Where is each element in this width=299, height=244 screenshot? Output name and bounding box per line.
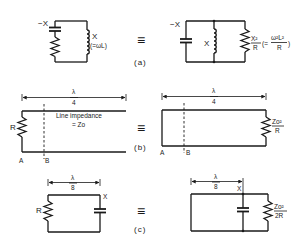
resistor-icon	[44, 201, 52, 221]
capacitor-icon	[94, 209, 106, 213]
resistor-note-numerator: ω²L²	[271, 34, 285, 41]
resistor-icon	[262, 117, 270, 137]
line-impedance-value: = Zo	[72, 121, 86, 128]
equivalence-symbol: ≡	[137, 203, 145, 219]
length-denominator: 8	[71, 184, 75, 191]
equivalence-symbol: ≡	[137, 32, 145, 48]
capacitor-label: −X	[170, 20, 181, 29]
length-denominator: 4	[212, 98, 216, 105]
point-a-label: A	[19, 157, 24, 164]
resistor-icon	[241, 29, 249, 52]
circuit-equivalence-diagram: −X X (=ωL) ≡ (a) −X X X²	[0, 0, 299, 244]
panel-a-right-circuit: −X X X² R (= ω²L² R )	[170, 20, 290, 64]
resistor-label-numerator: Zo²	[274, 203, 285, 210]
length-numerator: λ	[212, 87, 216, 94]
caption-b: (b)	[134, 143, 147, 152]
inductor-icon	[214, 29, 216, 53]
caption-a: (a)	[134, 58, 147, 67]
resistor-note-denominator: R	[277, 44, 282, 51]
equivalence-symbol: ≡	[137, 120, 145, 136]
point-b-label: B	[186, 149, 190, 156]
capacitor-label: X	[103, 193, 108, 200]
resistor-note-prefix: (=	[262, 40, 268, 48]
inductor-note: (=ωL)	[90, 42, 107, 50]
panel-a-left-circuit: −X X (=ωL)	[38, 19, 107, 62]
panel-b-right-circuit: λ 4 Zo² R A B	[160, 87, 284, 156]
length-denominator: 4	[72, 99, 76, 106]
length-numerator: λ	[71, 174, 75, 181]
inductor-label: X	[204, 39, 210, 48]
length-numerator: λ	[214, 173, 218, 180]
inductor-icon	[87, 30, 89, 54]
resistor-icon	[18, 117, 26, 137]
resistor-label-denominator: 2R	[275, 212, 284, 219]
caption-c: (c)	[134, 225, 146, 234]
resistor-label-numerator: X²	[251, 35, 258, 42]
capacitor-label: −X	[38, 19, 49, 28]
inductor-label: X	[92, 32, 98, 41]
resistor-label: R	[10, 123, 16, 132]
line-impedance-label: Line impedance	[56, 112, 102, 120]
resistor-icon	[51, 37, 59, 57]
resistor-label-denominator: R	[253, 44, 258, 51]
capacitor-icon	[237, 208, 249, 212]
capacitor-icon	[180, 39, 192, 43]
point-a-label: A	[160, 149, 165, 156]
length-numerator: λ	[72, 88, 76, 95]
capacitor-label: X	[237, 185, 242, 192]
length-denominator: 8	[214, 183, 218, 190]
point-b-label: B	[45, 157, 49, 164]
panel-c-right-circuit: λ 8 X Zo² 2R	[191, 173, 287, 232]
resistor-note-suffix: )	[288, 40, 290, 48]
resistor-label: R	[36, 206, 42, 215]
resistor-icon	[264, 201, 272, 221]
resistor-label-numerator: Zo²	[272, 118, 283, 125]
panel-c-left-circuit: λ 8 R X	[36, 174, 108, 232]
resistor-label-denominator: R	[275, 127, 280, 134]
capacitor-icon	[49, 28, 61, 32]
panel-b-left-circuit: λ 4 R Line impedance = Zo A B	[10, 88, 126, 164]
